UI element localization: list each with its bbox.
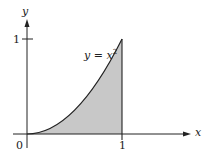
x-tick-label: 1 [119, 140, 126, 151]
curve-label: y = x2 [84, 49, 117, 61]
origin-label: 0 [16, 140, 23, 151]
x-axis-label: x [195, 127, 201, 138]
y-tick-label: 1 [13, 34, 20, 45]
y-axis-arrow-icon [25, 19, 30, 27]
area-under-curve-diagram: y 1 y = x2 0 1 x [0, 0, 211, 158]
curve-label-exp: 2 [113, 48, 117, 56]
curve-label-eq: = [90, 49, 106, 62]
plot-svg [0, 0, 211, 158]
y-axis-label: y [22, 6, 28, 17]
x-axis-arrow-icon [183, 132, 191, 137]
